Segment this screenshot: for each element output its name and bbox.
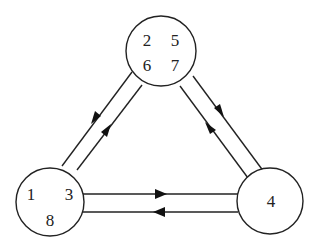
edge-left-right-pair [81, 189, 238, 217]
node-top-label-4: 7 [171, 56, 180, 75]
node-top-label-2: 5 [171, 31, 180, 50]
node-right: 4 [237, 168, 303, 234]
node-left-label-3: 8 [46, 211, 55, 230]
edge-top-left-pair [62, 72, 142, 170]
arrow-up-right-icon [101, 124, 111, 137]
arrow-down-left-icon [91, 111, 101, 124]
edge-top-right-pair [180, 76, 264, 178]
edge-top-to-right [193, 76, 264, 172]
diagram-canvas: 2 5 6 7 1 3 8 4 [0, 0, 318, 250]
node-right-label-1: 4 [267, 192, 276, 211]
node-top: 2 5 6 7 [126, 16, 196, 86]
arrow-right-icon [155, 189, 167, 199]
node-left-label-2: 3 [65, 185, 74, 204]
edge-right-to-top [180, 86, 248, 178]
node-top-label-3: 6 [143, 56, 152, 75]
node-left-label-1: 1 [27, 185, 36, 204]
node-top-circle [126, 16, 196, 86]
arrow-left-icon [153, 207, 165, 217]
node-top-label-1: 2 [143, 31, 152, 50]
node-left: 1 3 8 [16, 168, 84, 236]
